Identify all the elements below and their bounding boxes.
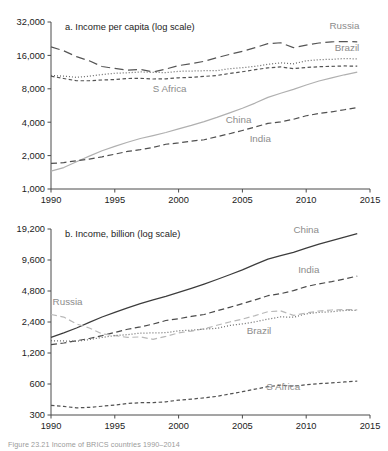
- chart-a-svg: 1,0002,0004,0008,00016,00032,00019901995…: [0, 0, 388, 212]
- y-tick-label: 16,000: [17, 51, 45, 61]
- chart-panel-b: 3006001,2002,4004,8009,60019,20019901995…: [0, 212, 388, 437]
- series-line-brazil: [51, 59, 357, 78]
- chart-title: a. Income per capita (log scale): [65, 22, 195, 32]
- series-line-russia: [51, 42, 357, 72]
- x-tick-label: 2010: [296, 195, 317, 205]
- x-tick-label: 1995: [104, 421, 125, 431]
- x-tick-label: 2015: [360, 195, 381, 205]
- series-line-s-africa: [51, 381, 357, 408]
- chart-b-svg: 3006001,2002,4004,8009,60019,20019901995…: [0, 212, 388, 437]
- series-label-brazil: Brazil: [247, 325, 272, 336]
- series-label-s-africa: S Africa: [266, 381, 300, 392]
- x-tick-label: 1990: [41, 421, 62, 431]
- x-tick-label: 2005: [232, 421, 253, 431]
- chart-title: b. Income, billion (log scale): [65, 229, 180, 239]
- x-tick-label: 2000: [168, 195, 189, 205]
- series-label-s-africa: S Africa: [153, 83, 187, 94]
- y-tick-label: 4,000: [22, 118, 45, 128]
- x-tick-label: 1995: [104, 195, 125, 205]
- figure-caption: Figure 23.21 Income of BRICS countries 1…: [8, 440, 378, 449]
- series-line-india: [51, 107, 357, 163]
- series-label-russia: Russia: [330, 20, 360, 31]
- y-tick-label: 9,600: [22, 255, 45, 265]
- figure-container: 1,0002,0004,0008,00016,00032,00019901995…: [0, 0, 388, 451]
- y-tick-label: 2,000: [22, 151, 45, 161]
- x-tick-label: 2000: [168, 421, 189, 431]
- y-tick-label: 1,200: [22, 348, 45, 358]
- series-label-brazil: Brazil: [335, 42, 360, 53]
- x-tick-label: 2015: [360, 421, 381, 431]
- x-tick-label: 1990: [41, 195, 62, 205]
- series-label-india: India: [250, 133, 272, 144]
- y-tick-label: 2,400: [22, 317, 45, 327]
- series-line-s-africa: [51, 66, 357, 81]
- y-tick-label: 19,200: [17, 224, 45, 234]
- series-line-india: [51, 276, 357, 344]
- series-label-china: China: [226, 114, 252, 125]
- series-line-china: [51, 72, 357, 171]
- series-label-india: India: [298, 264, 320, 275]
- x-tick-label: 2010: [296, 421, 317, 431]
- series-label-russia: Russia: [53, 296, 83, 307]
- y-tick-label: 600: [29, 379, 45, 389]
- series-label-china: China: [293, 224, 319, 235]
- y-tick-label: 300: [29, 410, 45, 420]
- y-tick-label: 32,000: [17, 17, 45, 27]
- y-tick-label: 4,800: [22, 286, 45, 296]
- y-tick-label: 8,000: [22, 84, 45, 94]
- x-tick-label: 2005: [232, 195, 253, 205]
- chart-panel-a: 1,0002,0004,0008,00016,00032,00019901995…: [0, 0, 388, 212]
- y-tick-label: 1,000: [22, 184, 45, 194]
